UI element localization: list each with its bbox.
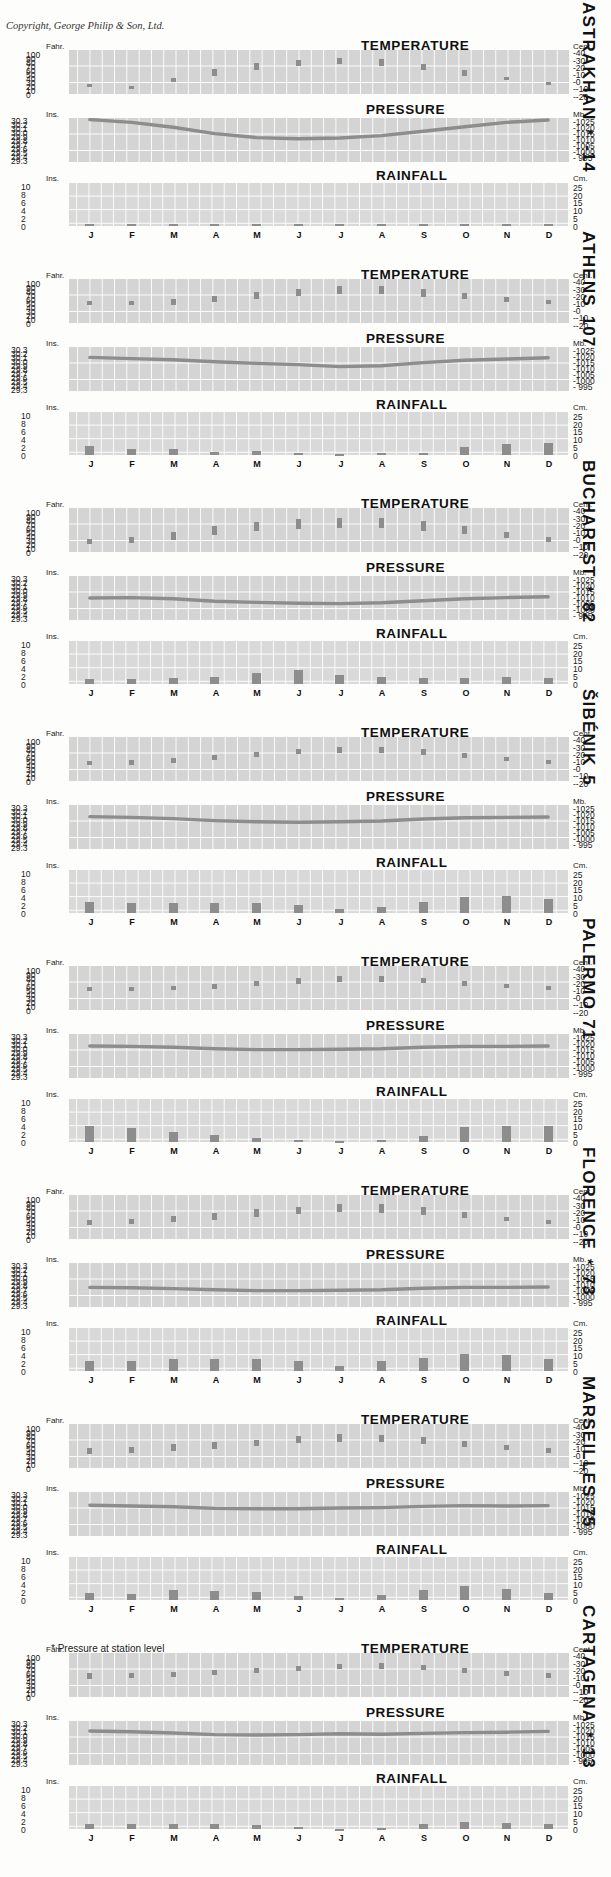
pressure-ins-tick: 29.3: [11, 1072, 28, 1082]
rainfall-bar: [252, 903, 261, 913]
rainfall-bar: [335, 454, 344, 456]
city-block: MARSEILLES75TEMPERATURE27.5°F 15.3°CFahr…: [0, 1374, 611, 1603]
pressure-line: [69, 1721, 569, 1765]
rainfall-bar: [335, 1829, 344, 1831]
rainfall-bar: [460, 447, 469, 455]
rainfall-bar: [169, 903, 178, 913]
rainfall-grid: [69, 411, 569, 455]
pressure-line: [69, 1263, 569, 1307]
rainfall-bar: [377, 1361, 386, 1371]
pressure-ins-tick: 29.3: [11, 385, 28, 395]
temperature-range-bar: [296, 1666, 301, 1671]
temperature-range-bar: [546, 537, 551, 541]
pressure-ins-tick: 29.3: [11, 1530, 28, 1540]
temperature-range-bar: [87, 1448, 92, 1454]
temperature-range-bar: [462, 70, 467, 76]
rainfall-bar: [335, 1366, 344, 1371]
rainfall-cm-unit: Cm.: [573, 174, 588, 183]
rainfall-bar: [85, 679, 94, 684]
rainfall-bar: [544, 1359, 553, 1371]
pressure-mb-tick: - 995: [573, 153, 592, 163]
rainfall-title: RAINFALL: [376, 855, 448, 870]
rainfall-ins-unit: Ins.: [46, 1777, 59, 1786]
temperature-range-bar: [129, 1673, 134, 1678]
pressure-grid: [69, 805, 569, 849]
rainfall-ins-unit: Ins.: [46, 632, 59, 641]
temperature-range-bar: [462, 981, 467, 986]
rainfall-grid: [69, 1327, 569, 1371]
rainfall-bar: [460, 1354, 469, 1371]
pressure-mb-tick: - 995: [573, 1756, 592, 1766]
rainfall-title: RAINFALL: [376, 1313, 448, 1328]
temperature-range-bar: [87, 1220, 92, 1225]
temperature-range-bar: [87, 539, 92, 544]
pressure-ins-unit: Ins.: [46, 1713, 59, 1722]
rainfall-bar: [419, 1136, 428, 1142]
rainfall-bar: [419, 1824, 428, 1829]
temperature-range-bar: [379, 1204, 384, 1212]
rainfall-bar: [544, 1593, 553, 1600]
temperature-range-bar: [296, 289, 301, 297]
temperature-range-bar: [421, 1437, 426, 1444]
temperature-range-bar: [421, 749, 426, 755]
rainfall-bar: [544, 1126, 553, 1142]
rainfall-bar: [460, 1586, 469, 1600]
month-label: F: [127, 1833, 139, 1843]
pressure-title: PRESSURE: [366, 102, 445, 117]
rainfall-cm-unit: Cm.: [573, 1777, 588, 1786]
rainfall-title: RAINFALL: [376, 168, 448, 183]
temperature-range-bar: [337, 976, 342, 982]
rainfall-bar: [335, 675, 344, 684]
pressure-line: [69, 576, 569, 620]
temperature-range-bar: [546, 1448, 551, 1453]
pressure-footnote: * Pressure at station level: [51, 1643, 164, 1654]
rainfall-bar: [460, 897, 469, 913]
city-block: PALERMO71TEMPERATURE26.5°F 14.7°CFahr.10…: [0, 916, 611, 1145]
month-label: M: [252, 1833, 264, 1843]
temperature-range-bar: [129, 1447, 134, 1453]
month-label: O: [460, 1833, 472, 1843]
rainfall-cm-tick: 0: [573, 1825, 578, 1835]
rainfall-panel: RAINFALL6.4in. 16.3cm.Ins.1086420Cm.2520…: [0, 166, 611, 228]
temperature-range-bar: [546, 760, 551, 764]
city-heading: BUCHAREST*82: [5, 460, 605, 494]
pressure-grid: [69, 1721, 569, 1765]
rainfall-bar: [294, 224, 303, 226]
rainfall-cm-unit: Cm.: [573, 1548, 588, 1557]
pressure-ins-unit: Ins.: [46, 568, 59, 577]
rainfall-bar: [252, 1592, 261, 1600]
rainfall-bar: [377, 1828, 386, 1830]
rainfall-bar: [502, 896, 511, 913]
rainfall-title: RAINFALL: [376, 1771, 448, 1786]
rainfall-bar: [252, 1138, 261, 1142]
pressure-ins-unit: Ins.: [46, 797, 59, 806]
temperature-range-bar: [462, 753, 467, 758]
temperature-range-bar: [296, 1436, 301, 1443]
pressure-ins-unit: Ins.: [46, 1255, 59, 1264]
city-block: BUCHAREST*82TEMPERATURE47.0°F 26.1°CFahr…: [0, 458, 611, 687]
temperature-range-bar: [171, 78, 176, 83]
temperature-range-bar: [504, 1445, 509, 1450]
pressure-title: PRESSURE: [366, 331, 445, 346]
pressure-title: PRESSURE: [366, 1476, 445, 1491]
rainfall-title: RAINFALL: [376, 626, 448, 641]
temperature-grid: [69, 1424, 569, 1468]
rainfall-bar: [294, 1140, 303, 1142]
temperature-range-bar: [379, 518, 384, 528]
temperature-range-bar: [504, 984, 509, 988]
pressure-panel: PRESSUREIns.30.330.230.130.029.929.829.7…: [0, 1016, 611, 1076]
temperature-range-bar: [462, 526, 467, 534]
temperature-range-bar: [296, 519, 301, 529]
temperature-grid: [69, 737, 569, 781]
city-heading: FLORENCE*73: [5, 1147, 605, 1181]
temperature-fahr-unit: Fahr.: [46, 729, 64, 738]
pressure-grid: [69, 347, 569, 391]
pressure-grid: [69, 118, 569, 162]
temperature-range-bar: [171, 1444, 176, 1451]
city-heading: CARTAGENA*13: [5, 1605, 605, 1639]
temperature-range-bar: [421, 64, 426, 70]
rainfall-bar: [210, 1824, 219, 1829]
temperature-range-bar: [254, 522, 259, 531]
temperature-range-bar: [379, 747, 384, 753]
temperature-range-bar: [421, 1207, 426, 1215]
